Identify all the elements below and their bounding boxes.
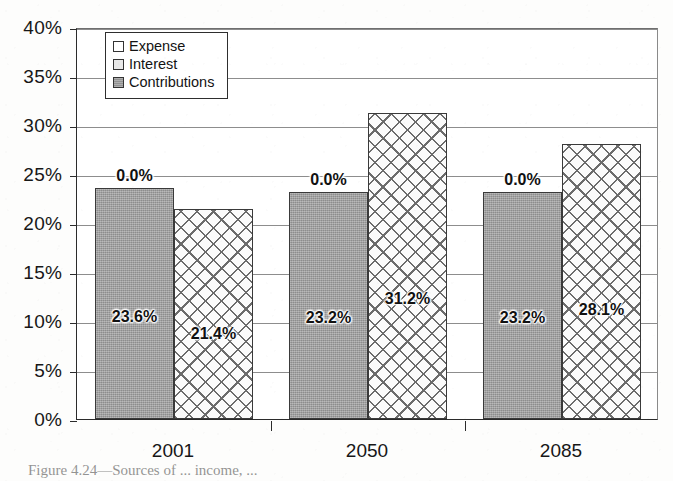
y-tick-mark	[70, 323, 77, 324]
legend-swatch-contributions-icon	[113, 77, 124, 88]
figure-caption: Figure 4.24—Sources of ... income, ...	[28, 462, 648, 479]
gridline	[77, 29, 657, 30]
legend-label-contributions: Contributions	[129, 75, 214, 90]
y-tick-mark	[70, 421, 77, 422]
bar-value-label-contributions-2085: 23.2%	[500, 309, 545, 327]
bar-value-label-interest-2001: 21.4%	[191, 325, 236, 343]
figure-grouped-bar-chart: 23.6%21.4%0.0%23.2%31.2%0.0%23.2%28.1%0.…	[0, 0, 673, 481]
y-tick-label: 15%	[0, 262, 62, 284]
y-tick-label: 20%	[0, 213, 62, 235]
bar-value-label-contributions-2050: 23.2%	[306, 309, 351, 327]
bar-value-label-expense-2085: 0.0%	[504, 171, 540, 189]
y-tick-label: 35%	[0, 66, 62, 88]
y-tick-label: 30%	[0, 115, 62, 137]
bar-value-label-expense-2001: 0.0%	[116, 167, 152, 185]
legend-label-interest: Interest	[129, 57, 177, 72]
bar-value-label-expense-2050: 0.0%	[310, 171, 346, 189]
legend-swatch-expense-icon	[113, 41, 124, 52]
x-tick-label-2001: 2001	[152, 440, 194, 462]
y-tick-label: 0%	[0, 409, 62, 431]
y-tick-mark	[70, 29, 77, 30]
x-tick-mark	[465, 421, 466, 431]
legend-item-interest: Interest	[113, 56, 220, 73]
bar-interest-2050: 31.2%	[368, 113, 447, 419]
y-tick-label: 5%	[0, 360, 62, 382]
y-tick-mark	[70, 78, 77, 79]
bar-interest-2085: 28.1%	[562, 144, 641, 419]
y-tick-label: 10%	[0, 311, 62, 333]
x-tick-mark	[271, 421, 272, 431]
bar-contributions-2001: 23.6%	[95, 188, 174, 419]
y-tick-mark	[70, 176, 77, 177]
y-tick-mark	[70, 372, 77, 373]
y-tick-label: 40%	[0, 17, 62, 39]
y-tick-label: 25%	[0, 164, 62, 186]
bar-contributions-2050: 23.2%	[289, 192, 368, 419]
bar-value-label-interest-2085: 28.1%	[579, 301, 624, 319]
x-tick-label-2050: 2050	[346, 440, 388, 462]
chart-legend: Expense Interest Contributions	[105, 32, 228, 99]
legend-item-contributions: Contributions	[113, 74, 220, 91]
legend-swatch-interest-icon	[113, 59, 124, 70]
bar-contributions-2085: 23.2%	[483, 192, 562, 419]
y-tick-mark	[70, 127, 77, 128]
x-tick-label-2085: 2085	[540, 440, 582, 462]
bar-value-label-contributions-2001: 23.6%	[112, 308, 157, 326]
y-tick-mark	[70, 225, 77, 226]
y-tick-mark	[70, 274, 77, 275]
legend-label-expense: Expense	[129, 39, 185, 54]
bar-value-label-interest-2050: 31.2%	[385, 290, 430, 308]
legend-item-expense: Expense	[113, 38, 220, 55]
gridline	[77, 127, 657, 128]
bar-interest-2001: 21.4%	[174, 209, 253, 419]
